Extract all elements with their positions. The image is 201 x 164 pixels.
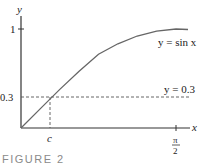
x-tick-label-c: c [47,132,52,144]
y-tick-label-1: 1 [10,23,16,35]
line-label: y = 0.3 [164,83,195,95]
curve-label: y = sin x [158,36,197,48]
y-axis-label: y [16,3,22,15]
x-axis-label: x [191,121,197,133]
x-tick-label-two: 2 [173,146,178,156]
x-tick-label-pi: π [173,135,178,145]
sine-chart: y 1 0.3 c π 2 x y = sin x y = 0.3 [0,0,201,164]
figure-caption: FIGURE 2 [2,153,65,164]
y-tick-label-0.3: 0.3 [0,92,13,103]
